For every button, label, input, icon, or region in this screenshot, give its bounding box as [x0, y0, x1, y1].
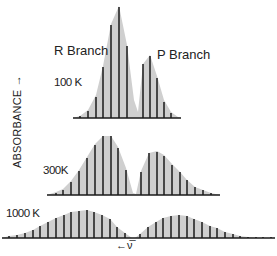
spectrum-panel-1000k [2, 210, 275, 238]
x-axis-label-wavenumber: ←ν̅ [116, 239, 133, 251]
band-envelope [47, 136, 220, 195]
spectrum-panel-100k [73, 6, 181, 118]
temperature-label-100k: 100 K [54, 76, 82, 88]
r-branch-label: R Branch [54, 43, 108, 58]
spectrum-panel-300k [47, 136, 220, 195]
rovibrational-spectra-chart [0, 0, 277, 256]
temperature-label-300k: 300K [43, 164, 68, 176]
band-envelope [2, 210, 275, 238]
temperature-label-1000k: 1000 K [6, 207, 39, 219]
y-axis-label: ABSORBANCE → [11, 75, 23, 168]
p-branch-label: P Branch [157, 47, 210, 62]
